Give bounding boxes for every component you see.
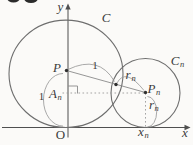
circle-c-label: C <box>102 10 111 25</box>
circle-cn-label-base: C <box>171 53 180 68</box>
length-pn-xaxis-label: rn <box>149 97 159 113</box>
cropped-text-fragment <box>7 0 20 2</box>
x-axis-label: x <box>181 125 188 140</box>
point-pn-label-base: P <box>147 81 156 96</box>
point-an-label-base: A <box>48 86 57 101</box>
y-axis-arrow-icon <box>65 4 70 10</box>
tangent-point-dot <box>114 83 117 86</box>
length-pn-xaxis-label-sub: n <box>154 103 158 113</box>
circle-cn-label-sub: n <box>180 59 184 69</box>
length-t-pn-label: rn <box>125 67 135 83</box>
math-figure: y C Cn P 1 rn Pn 1 An rn O xn x <box>0 0 193 145</box>
xn-label-sub: n <box>144 130 148 140</box>
geometry-diagram: y C Cn P 1 rn Pn 1 An rn O xn x <box>0 0 193 145</box>
cropped-text-fragment <box>24 0 38 3</box>
point-pn-label: Pn <box>147 81 161 97</box>
xn-label-base: x <box>137 124 144 139</box>
point-pn-label-sub: n <box>156 87 160 97</box>
point-an-label-sub: n <box>57 92 61 102</box>
circle-c <box>9 20 123 127</box>
point-p-label: P <box>52 60 61 75</box>
origin-label: O <box>56 127 65 142</box>
length-po-label: 1 <box>39 90 45 102</box>
right-angle-mark <box>68 86 78 94</box>
y-axis-label: y <box>56 0 64 14</box>
xn-label: xn <box>137 124 149 140</box>
length-t-pn-label-sub: n <box>131 73 135 83</box>
point-p-dot <box>65 69 68 72</box>
circle-cn-label: Cn <box>171 53 184 69</box>
length-pt-label: 1 <box>92 59 98 71</box>
point-an-label: An <box>48 86 62 102</box>
